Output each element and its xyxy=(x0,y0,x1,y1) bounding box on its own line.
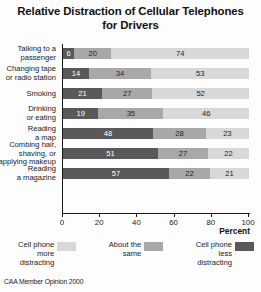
stacked-bar: 482823 xyxy=(63,128,249,139)
bar-segment-about-the-same: 34 xyxy=(89,68,152,79)
bar-segment-less-distracting: 19 xyxy=(63,108,98,119)
bar-segment-more-distracting: 21 xyxy=(210,168,249,179)
bar-segment-value: 22 xyxy=(185,170,193,178)
bar-segment-less-distracting: 21 xyxy=(63,88,102,99)
stacked-bar: 193546 xyxy=(63,108,249,119)
bar-segment-value: 19 xyxy=(76,110,84,118)
bar-segment-about-the-same: 20 xyxy=(74,48,111,59)
legend-swatch-less-distracting xyxy=(235,242,254,251)
y-axis-line xyxy=(62,44,63,214)
source-note: CAA Member Opinion 2000 xyxy=(4,278,83,286)
bar-segment-value: 74 xyxy=(176,50,184,58)
category-label: Talking to apassenger xyxy=(0,44,58,64)
bar-segment-value: 21 xyxy=(78,90,86,98)
stacked-bar: 572221 xyxy=(63,168,249,179)
bar-segment-value: 28 xyxy=(175,130,183,138)
category-label: Smoking xyxy=(0,84,58,104)
bar-segment-value: 48 xyxy=(104,130,112,138)
chart-title-line-2: for Drivers xyxy=(8,19,253,33)
bar-segment-value: 14 xyxy=(72,70,80,78)
bar-segment-value: 53 xyxy=(196,70,204,78)
category-label: Readinga magazine xyxy=(0,164,58,184)
x-tick-label: 20 xyxy=(95,218,104,227)
bar-segment-value: 35 xyxy=(127,110,135,118)
chart-figure: Relative Distraction of Cellular Telepho… xyxy=(0,0,261,292)
x-tick-mark xyxy=(248,214,249,217)
legend-item-more-distracting[interactable]: Cell phonemoredistracting xyxy=(18,241,76,267)
category-label-line: Smoking xyxy=(26,90,56,99)
chart-row: Talking to apassenger62074 xyxy=(0,44,261,64)
x-tick-mark xyxy=(211,214,212,217)
category-label: Drinkingor eating xyxy=(0,104,58,124)
bar-segment-about-the-same: 35 xyxy=(98,108,163,119)
bar-segment-value: 46 xyxy=(202,110,210,118)
x-axis-ticks: 020406080100 xyxy=(62,214,250,224)
bar-segment-value: 51 xyxy=(106,150,114,158)
legend-swatch-about-the-same xyxy=(144,242,163,251)
bar-segment-value: 57 xyxy=(112,170,120,178)
category-label-line: or eating xyxy=(26,114,56,123)
chart-row: Readinga magazine572221 xyxy=(0,164,261,184)
bar-segment-value: 52 xyxy=(196,90,204,98)
bar-segment-about-the-same: 22 xyxy=(169,168,210,179)
category-label: Combing hair,shaving, orapplying makeup xyxy=(0,144,58,164)
x-tick-mark xyxy=(136,214,137,217)
stacked-bar: 143453 xyxy=(63,68,249,79)
bar-segment-value: 23 xyxy=(223,130,231,138)
category-label-line: a magazine xyxy=(17,174,56,183)
legend-item-about-the-same[interactable]: About thesame xyxy=(109,241,164,259)
bar-segment-less-distracting: 6 xyxy=(63,48,74,59)
x-axis-label: Percent xyxy=(160,226,250,236)
legend-label: Cell phonemoredistracting xyxy=(18,241,54,267)
bar-segment-more-distracting: 23 xyxy=(206,128,249,139)
stacked-bar: 512722 xyxy=(63,148,249,159)
bar-segment-more-distracting: 22 xyxy=(208,148,249,159)
bar-segment-more-distracting: 52 xyxy=(152,88,249,99)
chart-row: Smoking212752 xyxy=(0,84,261,104)
category-label: Changing tapeor radio station xyxy=(0,64,58,84)
bar-segment-value: 20 xyxy=(89,50,97,58)
legend-label: Cell phonelessdistracting xyxy=(196,241,232,267)
bar-segment-value: 34 xyxy=(116,70,124,78)
x-tick-label: 40 xyxy=(132,218,141,227)
bar-segment-value: 6 xyxy=(66,50,70,58)
chart-row: Combing hair,shaving, orapplying makeup5… xyxy=(0,144,261,164)
bar-segment-more-distracting: 46 xyxy=(163,108,249,119)
legend-item-less-distracting[interactable]: Cell phonelessdistracting xyxy=(196,241,254,267)
legend-label: About thesame xyxy=(109,241,142,259)
chart-title: Relative Distraction of Cellular Telepho… xyxy=(8,5,253,32)
stacked-bar: 212752 xyxy=(63,88,249,99)
bar-segment-more-distracting: 53 xyxy=(151,68,249,79)
x-tick-mark xyxy=(174,214,175,217)
chart-row: Changing tapeor radio station143453 xyxy=(0,64,261,84)
bar-segment-less-distracting: 57 xyxy=(63,168,169,179)
bar-segment-less-distracting: 48 xyxy=(63,128,153,139)
bar-segment-less-distracting: 51 xyxy=(63,148,158,159)
plot-area: Talking to apassenger62074Changing tapeo… xyxy=(0,44,261,210)
category-label-line: passenger xyxy=(21,54,56,63)
x-tick-label: 0 xyxy=(60,218,64,227)
bar-segment-about-the-same: 27 xyxy=(158,148,208,159)
x-tick-mark xyxy=(99,214,100,217)
category-label-line: or radio station xyxy=(6,74,56,83)
chart-legend: Cell phonemoredistractingAbout thesameCe… xyxy=(18,241,254,273)
bar-segment-value: 27 xyxy=(123,90,131,98)
bar-segment-about-the-same: 27 xyxy=(102,88,152,99)
bar-segment-less-distracting: 14 xyxy=(63,68,89,79)
legend-label-line: distracting xyxy=(18,259,54,268)
bar-segment-value: 21 xyxy=(225,170,233,178)
chart-title-line-1: Relative Distraction of Cellular Telepho… xyxy=(8,5,253,19)
bar-segment-value: 27 xyxy=(179,150,187,158)
legend-swatch-more-distracting xyxy=(57,242,76,251)
legend-label-line: same xyxy=(109,250,142,259)
chart-row: Drinkingor eating193546 xyxy=(0,104,261,124)
legend-label-line: distracting xyxy=(196,259,232,268)
bar-segment-about-the-same: 28 xyxy=(153,128,206,139)
stacked-bar: 62074 xyxy=(63,48,249,59)
x-tick-mark xyxy=(62,214,63,217)
bar-segment-more-distracting: 74 xyxy=(111,48,249,59)
bar-segment-value: 22 xyxy=(224,150,232,158)
